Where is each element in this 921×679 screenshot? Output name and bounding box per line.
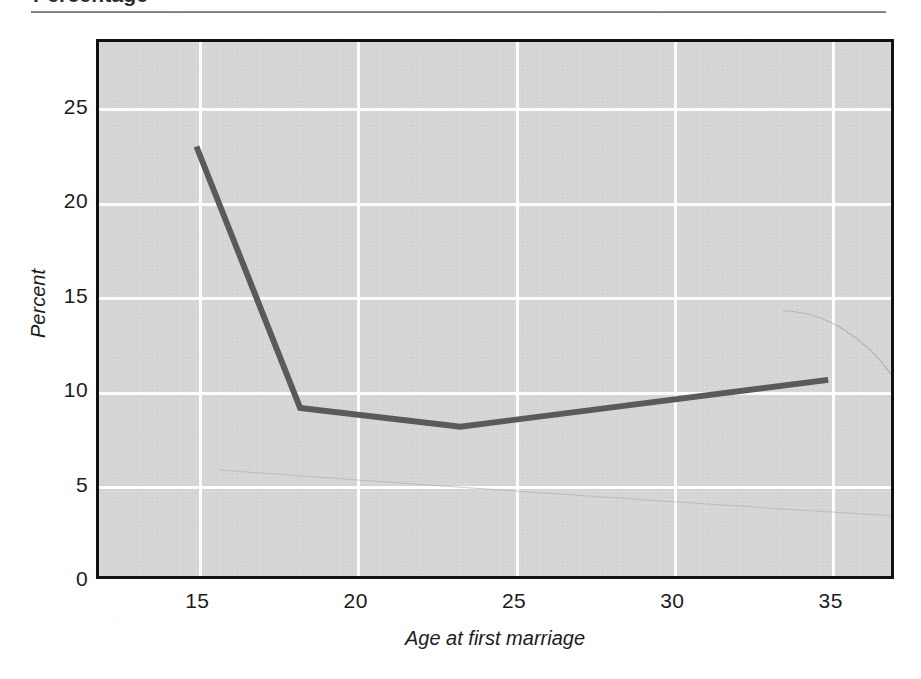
- x-tick-label-35: 35: [796, 589, 866, 613]
- x-axis-title: Age at first marriage: [96, 627, 894, 650]
- y-tick-label-10: 10: [28, 378, 88, 402]
- line-chart: 0510152025 Percent 1520253035 Age at fir…: [0, 0, 921, 679]
- x-tick-label-25: 25: [479, 589, 549, 613]
- page-canvas: Percentage 0510152025 Percent 1520253035: [0, 0, 921, 679]
- y-tick-label-5: 5: [28, 473, 88, 497]
- y-tick-label-0: 0: [28, 567, 88, 591]
- x-tick-label-20: 20: [321, 589, 391, 613]
- data-series-layer: [99, 42, 891, 576]
- y-axis-title: Percent: [27, 244, 50, 364]
- plot-inner: [99, 42, 891, 576]
- y-tick-label-25: 25: [28, 95, 88, 119]
- plot-area: [96, 39, 894, 579]
- x-tick-label-15: 15: [162, 589, 232, 613]
- x-axis-tick-labels: 1520253035: [96, 589, 894, 617]
- series-line-percent: [196, 147, 828, 427]
- y-tick-label-20: 20: [28, 189, 88, 213]
- x-tick-label-30: 30: [637, 589, 707, 613]
